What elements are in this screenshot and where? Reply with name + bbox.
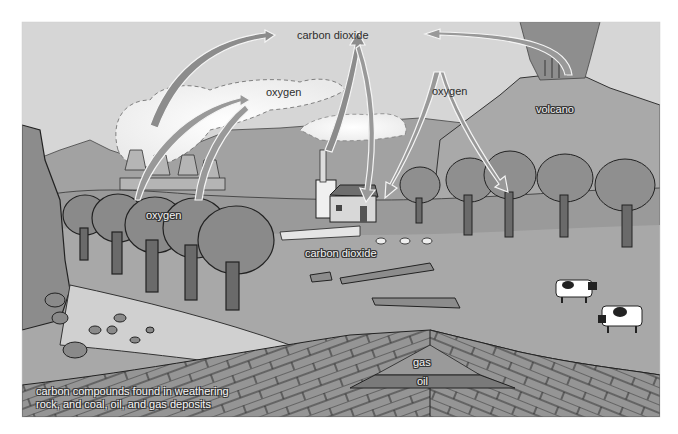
label-oil: oil (417, 376, 428, 387)
label-oxygen-right: oxygen (432, 86, 467, 97)
caption-carbon-compounds: carbon compounds found in weathering roc… (36, 385, 229, 411)
label-oxygen-cloud: oxygen (266, 87, 301, 98)
label-volcano: volcano (536, 104, 574, 115)
label-gas: gas (413, 357, 431, 368)
sheep (376, 238, 432, 244)
label-carbon-dioxide-top: carbon dioxide (297, 30, 369, 41)
carbon-cycle-illustration (0, 0, 678, 434)
caption-line-1: carbon compounds found in weathering (36, 385, 229, 398)
label-oxygen-trees: oxygen (146, 210, 181, 221)
label-carbon-dioxide-ground: carbon dioxide (305, 248, 377, 259)
caption-line-2: rock, and coal, oil, and gas deposits (36, 398, 229, 411)
